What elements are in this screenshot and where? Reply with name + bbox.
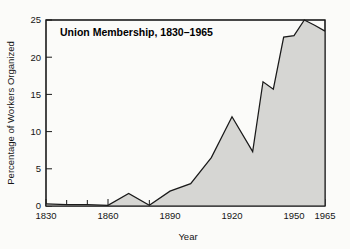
x-tick-label: 1830 xyxy=(35,210,56,221)
chart-title: Union Membership, 1830–1965 xyxy=(60,26,213,38)
x-tick-label: 1920 xyxy=(221,210,242,221)
x-tick-label: 1965 xyxy=(314,210,335,221)
y-tick-label: 15 xyxy=(30,89,41,100)
x-tick-label: 1860 xyxy=(97,210,118,221)
x-tick-label: 1950 xyxy=(283,210,304,221)
x-axis-title: Year xyxy=(178,231,197,242)
union-membership-area-chart: 0510152025 183018601890192019501965 Unio… xyxy=(0,0,350,249)
x-tick-label: 1890 xyxy=(159,210,180,221)
chart-figure: 0510152025 183018601890192019501965 Unio… xyxy=(0,0,350,249)
y-axis-title: Percentage of Workers Organized xyxy=(5,41,16,184)
y-tick-label: 25 xyxy=(30,14,41,25)
y-tick-label: 5 xyxy=(36,163,41,174)
y-tick-label: 20 xyxy=(30,52,41,63)
y-tick-label: 10 xyxy=(30,126,41,137)
